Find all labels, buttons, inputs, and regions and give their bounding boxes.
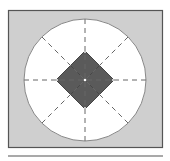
diagram-figure bbox=[0, 0, 170, 161]
